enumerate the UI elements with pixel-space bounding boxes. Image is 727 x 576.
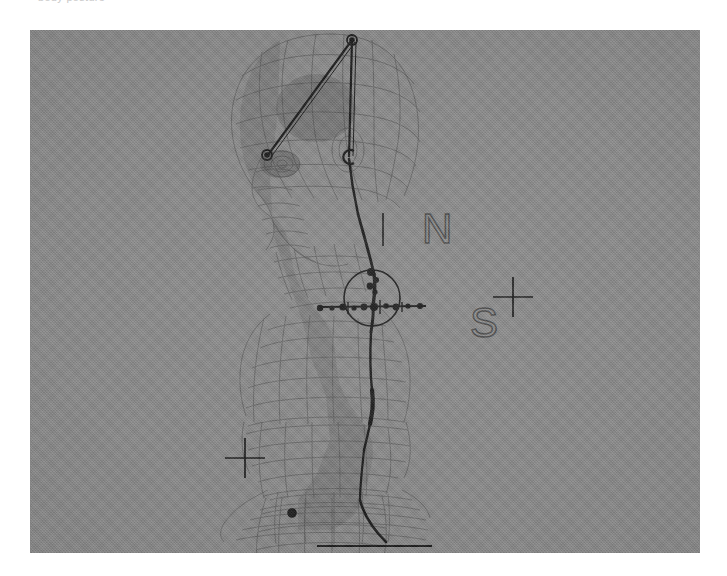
crosshair-right-icon <box>493 277 533 317</box>
label-south: S <box>470 302 498 344</box>
figure-panel: N S <box>30 30 700 553</box>
page-root: body posture <box>0 0 727 576</box>
thoracic-node-cluster <box>367 268 379 295</box>
top-caption-fragment: body posture <box>38 0 105 3</box>
label-north: N <box>422 208 452 250</box>
heel-node-marker <box>288 509 296 517</box>
wireframe-figure-artwork <box>30 30 700 553</box>
crosshair-lower-left-icon <box>225 438 265 478</box>
